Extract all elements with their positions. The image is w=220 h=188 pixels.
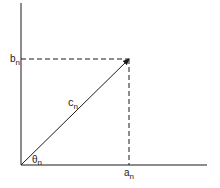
label-c-sub: n [74, 102, 78, 111]
label-b: bn [10, 53, 20, 67]
label-theta-sub: n [38, 158, 42, 167]
label-b-sub: n [16, 58, 20, 67]
label-a: an [124, 167, 134, 181]
vector-diagram: bn cn θn an [0, 0, 220, 188]
vector-c-arrow [21, 59, 129, 165]
label-c: cn [68, 96, 78, 111]
label-a-sub: n [130, 172, 134, 181]
